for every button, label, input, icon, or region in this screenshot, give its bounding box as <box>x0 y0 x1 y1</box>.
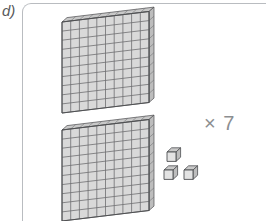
unit-cube-1 <box>167 148 181 162</box>
exercise-panel: d) × 7 <box>0 0 266 221</box>
multiplier-label: × 7 <box>204 112 235 134</box>
unit-cube-1-front-face <box>167 152 176 161</box>
hundred-flat-bottom <box>62 115 154 221</box>
unit-cube-3-front-face <box>184 170 193 179</box>
hundred-flat-top <box>62 7 154 113</box>
unit-cube-2-front-face <box>164 170 173 179</box>
unit-cube-2 <box>164 166 178 180</box>
base-ten-blocks-illustration <box>0 0 266 221</box>
unit-cube-3 <box>184 166 198 180</box>
